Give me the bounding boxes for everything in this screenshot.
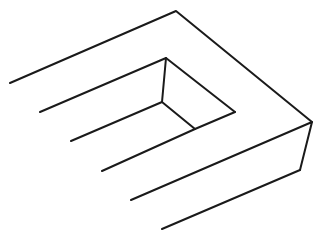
prong-3-line — [71, 102, 195, 141]
prong-4-line — [102, 112, 235, 171]
prong-5-line — [131, 122, 312, 200]
prong-6-line — [162, 170, 300, 229]
line-group — [10, 11, 312, 229]
inner-vertical-line — [162, 58, 166, 102]
prong-2-top-line — [40, 58, 235, 112]
impossible-fork-drawing — [0, 0, 333, 243]
